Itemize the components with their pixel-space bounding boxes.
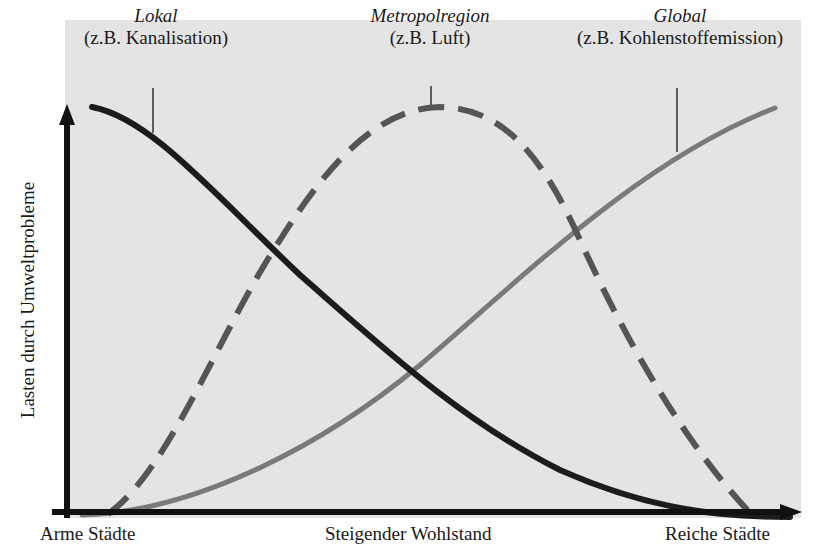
- metro-annotation: Metropolregion (z.B. Luft): [330, 5, 530, 49]
- lokal-annotation: Lokal (z.B. Kanalisation): [66, 5, 246, 49]
- global-title: Global: [555, 5, 805, 27]
- lokal-example: (z.B. Kanalisation): [66, 27, 246, 49]
- metro-example: (z.B. Luft): [330, 27, 530, 49]
- lokal-title: Lokal: [66, 5, 246, 27]
- x-axis-label: Steigender Wohlstand: [325, 523, 491, 545]
- metro-curve: [108, 107, 752, 515]
- y-axis-arrowhead-icon: [59, 104, 75, 125]
- global-example: (z.B. Kohlenstoffemission): [555, 27, 805, 49]
- x-label-left: Arme Städte: [40, 523, 136, 545]
- lokal-curve: [92, 107, 790, 517]
- metro-title: Metropolregion: [330, 5, 530, 27]
- x-label-right: Reiche Städte: [665, 523, 770, 545]
- chart-plot: [0, 0, 816, 555]
- global-annotation: Global (z.B. Kohlenstoffemission): [555, 5, 805, 49]
- y-axis-label: Lasten durch Umweltprobleme: [17, 182, 39, 418]
